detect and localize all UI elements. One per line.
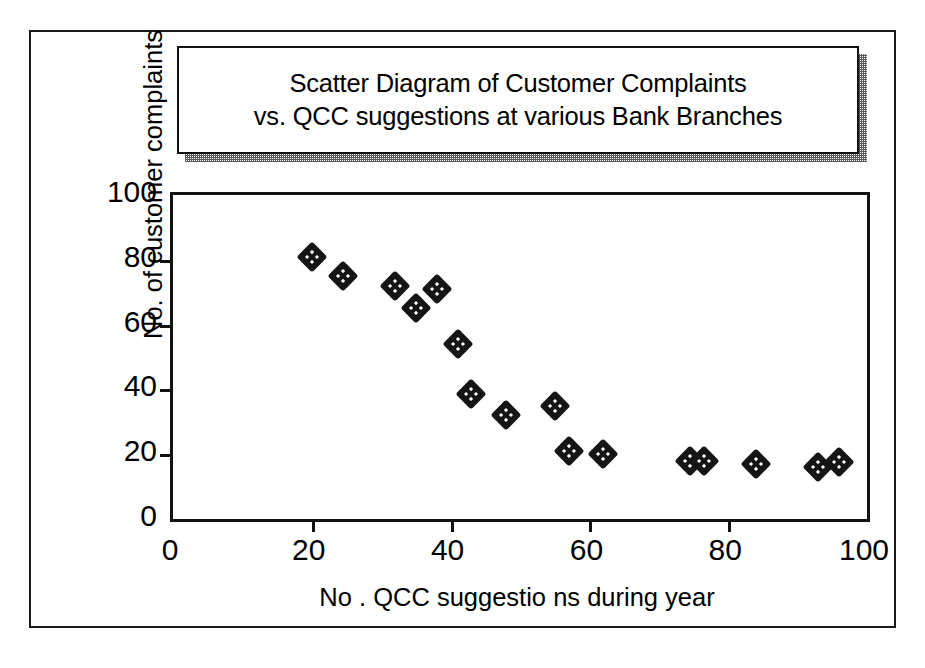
x-axis-tick-label: 20 [292, 535, 325, 565]
scatter-point [442, 328, 473, 359]
chart-title-line-1: Scatter Diagram of Customer Complaints [289, 67, 746, 100]
y-axis-tick-label: 20 [124, 436, 157, 466]
y-axis-title: No. of customer complaints [139, 15, 168, 355]
y-axis-tick [160, 325, 173, 328]
x-axis-tick [728, 519, 731, 532]
figure-frame: Scatter Diagram of Customer Complaints v… [29, 30, 896, 628]
scatter-point [380, 270, 411, 301]
scatter-point [539, 390, 570, 421]
x-axis-tick [451, 519, 454, 532]
chart-title-line-2: vs. QCC suggestions at various Bank Bran… [254, 100, 782, 133]
scatter-point [296, 241, 327, 272]
scatter-point [421, 273, 452, 304]
x-axis-title: No . QCC suggestio ns during year [170, 583, 864, 612]
scatter-point [588, 439, 619, 470]
x-axis-tick-label: 80 [709, 535, 742, 565]
scatter-point [327, 260, 358, 291]
scatter-point [740, 448, 771, 479]
y-axis-tick-label: 0 [140, 501, 157, 531]
y-axis-tick [160, 389, 173, 392]
y-axis-tick [160, 454, 173, 457]
x-axis-tick-labels: 020406080100 [170, 535, 864, 571]
scatter-point [553, 435, 584, 466]
x-axis-tick-label: 40 [431, 535, 464, 565]
y-axis-tick [160, 260, 173, 263]
y-axis-tick-label: 40 [124, 371, 157, 401]
plot-area [170, 192, 870, 522]
chart-title-box: Scatter Diagram of Customer Complaints v… [177, 46, 859, 154]
scatter-point [400, 293, 431, 324]
scatter-point [491, 400, 522, 431]
x-axis-tick-label: 60 [570, 535, 603, 565]
x-axis-tick-label: 100 [839, 535, 889, 565]
x-axis-tick [312, 519, 315, 532]
scatter-point [824, 447, 855, 478]
x-axis-tick-label: 0 [162, 535, 179, 565]
scatter-plot-canvas [173, 195, 867, 519]
scatter-point [456, 379, 487, 410]
x-axis-tick [589, 519, 592, 532]
